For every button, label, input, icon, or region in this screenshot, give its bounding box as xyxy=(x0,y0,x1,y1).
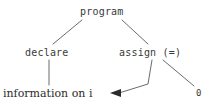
node-program: program xyxy=(80,6,124,17)
edge-program-declare xyxy=(53,20,82,44)
edge-assign-info-arrow xyxy=(119,60,152,93)
node-information-on-i: information on i xyxy=(3,88,92,100)
arrowhead-icon xyxy=(110,89,121,97)
edge-program-assign xyxy=(122,20,148,44)
parse-tree-diagram: program declare assign (=) information o… xyxy=(0,0,216,112)
edge-assign-zero xyxy=(163,60,194,86)
node-declare: declare xyxy=(25,47,69,58)
node-assign: assign (=) xyxy=(119,47,181,58)
node-zero: 0 xyxy=(196,88,202,99)
